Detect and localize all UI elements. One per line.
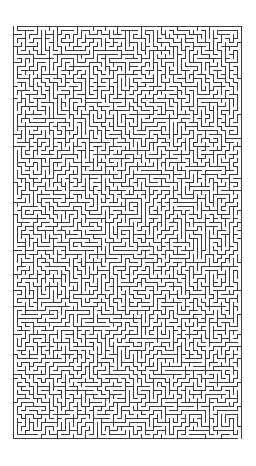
maze-canvas [0, 0, 256, 466]
maze-figure: Maze [0, 0, 256, 466]
page-root: Maze [0, 0, 256, 466]
